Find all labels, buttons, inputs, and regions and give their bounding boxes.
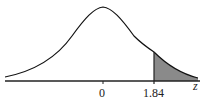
axis-label-z: z (193, 80, 198, 92)
tick-label-zero: 0 (99, 87, 105, 99)
tick-label-critical: 1.84 (143, 87, 164, 99)
